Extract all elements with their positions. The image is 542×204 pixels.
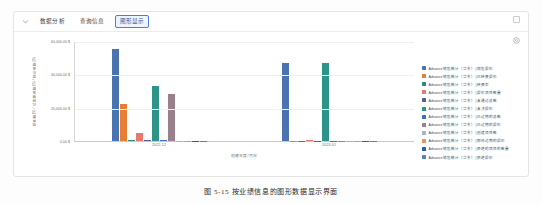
legend-item[interactable]: Advance 销售统计（华东）| 即将过期的报价: [422, 137, 526, 145]
legend-label: Advance 销售统计（华东）| 即将过期的报价: [429, 138, 506, 143]
bar-group: [75, 42, 245, 141]
legend-item[interactable]: Advance 销售统计（华东）| 已过期的总数: [422, 113, 526, 121]
legend-label: Advance 销售统计（华东）| 拒绝的项目的数量: [429, 146, 510, 151]
legend-item[interactable]: Advance 销售统计（华东）| 已转换报价: [422, 72, 526, 80]
legend-swatch: [422, 98, 426, 102]
legend-label: Advance 销售统计（华东）| 拒绝报价: [429, 155, 494, 160]
expand-square-icon[interactable]: [513, 16, 520, 23]
screenshot-root: 数据分析 查询信息 图形显示 销售额($) / 已转换金额($) / 报价金额(…: [0, 0, 542, 204]
gridline: [75, 109, 414, 110]
tab-data-analysis[interactable]: 数据分析: [35, 15, 70, 28]
bar[interactable]: [128, 140, 135, 141]
bar[interactable]: [184, 141, 191, 142]
gridline: [75, 42, 414, 43]
legend-label: Advance 销售统计（华东）| 未通过总数: [429, 98, 498, 103]
chart-card: 数据分析 查询信息 图形显示 销售额($) / 已转换金额($) / 报价金额(…: [13, 11, 529, 177]
bar[interactable]: [200, 141, 207, 142]
legend-label: Advance 销售统计（华东）| 转换率: [429, 82, 490, 87]
x-axis-title: 创建年度/月份: [74, 153, 414, 158]
bar[interactable]: [136, 133, 143, 141]
x-axis-tick: 2022-12: [74, 143, 244, 151]
bar[interactable]: [160, 140, 167, 141]
bar[interactable]: [176, 141, 183, 142]
bar[interactable]: [290, 141, 297, 142]
y-axis-tick: 20,000.00 $: [51, 107, 70, 111]
legend-swatch: [422, 131, 426, 135]
bar[interactable]: [298, 141, 305, 142]
bar[interactable]: [192, 141, 199, 142]
bar[interactable]: [362, 141, 369, 142]
bar[interactable]: [346, 141, 353, 142]
legend-label: Advance 销售统计（华东）| 已转换报价: [429, 74, 498, 79]
legend-item[interactable]: Advance 销售统计（华东）| 创建项目数: [422, 129, 526, 137]
legend-item[interactable]: Advance 销售统计（华东）| 拒绝报价: [422, 153, 526, 161]
tab-graph-display[interactable]: 图形显示: [115, 15, 150, 28]
legend-item[interactable]: Advance 销售统计（华东）| 未决报价: [422, 104, 526, 112]
legend-label: Advance 销售统计（华东）| 未决报价: [429, 106, 494, 111]
card-tabbar: 数据分析 查询信息 图形显示: [14, 12, 528, 32]
legend-item[interactable]: Advance 销售统计（华东）| 转换率: [422, 80, 526, 88]
bar[interactable]: [306, 140, 313, 141]
legend-label: Advance 销售统计（华东）| 创建项目数: [429, 130, 498, 135]
legend-swatch: [422, 82, 426, 86]
legend-label: Advance 销售统计（华东）| 已过期的报价: [429, 122, 502, 127]
y-axis-tick-labels: 0.00 $20,000.00 $40,000.00 $60,000.00 $: [38, 42, 72, 142]
bar[interactable]: [330, 141, 337, 142]
bar[interactable]: [168, 94, 175, 141]
bar-group: [245, 42, 415, 141]
legend-swatch: [422, 107, 426, 111]
bar[interactable]: [120, 104, 127, 141]
bar[interactable]: [144, 140, 151, 141]
bar[interactable]: [338, 141, 345, 142]
chart-canvas: 销售额($) / 已转换金额($) / 报价金额($) 0.00 $20,000…: [32, 42, 414, 160]
legend-item[interactable]: Advance 销售统计（华东）| 拒绝的项目的数量: [422, 145, 526, 153]
gridline: [75, 75, 414, 76]
legend-label: Advance 销售统计（华东）| 报价项目数量: [429, 90, 502, 95]
legend-swatch: [422, 66, 426, 70]
chevron-down-icon[interactable]: [21, 17, 30, 26]
legend-item[interactable]: Advance 销售统计（华东）| 销售报价: [422, 64, 526, 72]
bar[interactable]: [152, 86, 159, 141]
legend-swatch: [422, 123, 426, 127]
legend-item[interactable]: Advance 销售统计（华东）| 报价项目数量: [422, 88, 526, 96]
x-axis-tick: 2023-01: [244, 143, 414, 151]
y-axis-title: 销售额($) / 已转换金额($) / 报价金额($): [29, 42, 37, 142]
y-axis-tick: 60,000.00 $: [51, 40, 70, 44]
legend-label: Advance 销售统计（华东）| 已过期的总数: [429, 114, 502, 119]
y-axis-tick: 40,000.00 $: [51, 73, 70, 77]
bar[interactable]: [354, 141, 361, 142]
x-axis-tick-labels: 2022-122023-01: [74, 143, 414, 151]
legend-swatch: [422, 115, 426, 119]
y-axis-tick: 0.00 $: [60, 140, 70, 144]
legend-swatch: [422, 90, 426, 94]
legend-swatch: [422, 139, 426, 143]
bar[interactable]: [370, 141, 377, 142]
chart-plot-area: 销售额($) / 已转换金额($) / 报价金额($) 0.00 $20,000…: [14, 32, 528, 177]
legend-swatch: [422, 155, 426, 159]
chart-grid: [74, 42, 414, 142]
legend-item[interactable]: Advance 销售统计（华东）| 已过期的报价: [422, 121, 526, 129]
chart-legend: Advance 销售统计（华东）| 销售报价Advance 销售统计（华东）| …: [422, 64, 526, 161]
figure-caption: 图 5-15 按业绩信息的图形数据显示界面: [0, 186, 542, 196]
legend-swatch: [422, 74, 426, 78]
legend-label: Advance 销售统计（华东）| 销售报价: [429, 66, 494, 71]
bar[interactable]: [112, 49, 119, 141]
legend-swatch: [422, 147, 426, 151]
legend-item[interactable]: Advance 销售统计（华东）| 未通过总数: [422, 96, 526, 104]
bar-groups: [75, 42, 414, 141]
bar[interactable]: [314, 141, 321, 142]
tab-query-info[interactable]: 查询信息: [75, 15, 110, 28]
